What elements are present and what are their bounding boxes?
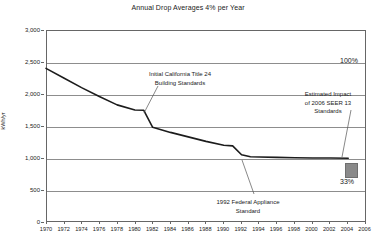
- x-tick-mark: [64, 221, 65, 224]
- x-axis-tick-labels: 1970 1972 1974 1976 1978 1980 1982 1984 …: [46, 224, 366, 242]
- x-tick-label: 1998: [288, 226, 300, 232]
- y-axis-tick-labels: 3,000 2,500 2,000 1,500 1,000 500 0: [0, 30, 44, 222]
- x-tick-mark: [312, 221, 313, 224]
- chart-title: Annual Drop Averages 4% per Year: [0, 4, 376, 11]
- x-tick-label: 1986: [181, 226, 193, 232]
- x-tick-label: 1970: [40, 226, 52, 232]
- x-tick-label: 2000: [305, 226, 317, 232]
- y-tick-label: 2,000: [25, 91, 40, 97]
- x-tick-label: 1994: [252, 226, 264, 232]
- y-tick-mark: [41, 222, 44, 223]
- x-tick-mark: [117, 221, 118, 224]
- x-tick-label: 1976: [93, 226, 105, 232]
- x-tick-mark: [188, 221, 189, 224]
- x-tick-label: 1992: [234, 226, 246, 232]
- y-tick-mark: [41, 94, 44, 95]
- x-tick-label: 1980: [128, 226, 140, 232]
- y-tick-label: 2,500: [25, 59, 40, 65]
- x-tick-mark: [99, 221, 100, 224]
- x-tick-mark: [329, 221, 330, 224]
- annotation-line: Initial California Title 24: [122, 70, 238, 79]
- annotation-title-24: Initial California Title 24 Building Sta…: [122, 70, 238, 87]
- x-tick-mark: [81, 221, 82, 224]
- x-tick-mark: [365, 221, 366, 224]
- x-tick-mark: [347, 221, 348, 224]
- annotation-line: Standards: [288, 107, 368, 116]
- x-tick-mark: [152, 221, 153, 224]
- annotation-line: Building Standards: [122, 79, 238, 88]
- annotation-federal-appliance: 1992 Federal Appliance Standard: [194, 198, 302, 215]
- y-tick-label: 500: [30, 187, 40, 193]
- x-tick-label: 1984: [164, 226, 176, 232]
- x-tick-label: 2006: [358, 226, 370, 232]
- x-tick-label: 2004: [341, 226, 353, 232]
- y-tick-mark: [41, 62, 44, 63]
- x-tick-label: 2002: [323, 226, 335, 232]
- leader-line-federal: [242, 160, 254, 194]
- y-tick-mark: [41, 190, 44, 191]
- y-tick-label: 3,000: [25, 27, 40, 33]
- x-tick-label: 1978: [111, 226, 123, 232]
- x-tick-mark: [46, 221, 47, 224]
- seer13-impact-marker: [345, 163, 358, 178]
- y-tick-mark: [41, 158, 44, 159]
- x-tick-label: 1996: [270, 226, 282, 232]
- leader-line-title24: [144, 86, 158, 113]
- y-tick-label: 0: [37, 219, 40, 225]
- x-tick-mark: [258, 221, 259, 224]
- annotation-line: Estimated Impact: [288, 90, 368, 99]
- annotation-seer-13: Estimated Impact of 2006 SEER 13 Standar…: [288, 90, 368, 116]
- y-tick-label: 1,000: [25, 155, 40, 161]
- annotation-line: of 2006 SEER 13: [288, 99, 368, 108]
- x-tick-label: 1972: [57, 226, 69, 232]
- x-tick-mark: [135, 221, 136, 224]
- x-tick-mark: [294, 221, 295, 224]
- x-tick-label: 1974: [75, 226, 87, 232]
- y-tick-label: 1,500: [25, 123, 40, 129]
- y-tick-mark: [41, 126, 44, 127]
- annotation-line: 1992 Federal Appliance: [194, 198, 302, 207]
- chart-root: Annual Drop Averages 4% per Year 3,000 2…: [0, 0, 376, 248]
- baseline-percent-label: 100%: [340, 57, 358, 64]
- x-tick-label: 1982: [146, 226, 158, 232]
- x-tick-mark: [205, 221, 206, 224]
- x-tick-mark: [170, 221, 171, 224]
- x-tick-label: 1988: [199, 226, 211, 232]
- x-tick-mark: [241, 221, 242, 224]
- leader-line-seer13: [342, 110, 351, 157]
- data-layer: [46, 30, 366, 222]
- reduced-percent-label: 33%: [340, 178, 354, 185]
- annotation-line: Standard: [194, 207, 302, 216]
- x-tick-label: 1990: [217, 226, 229, 232]
- x-tick-mark: [276, 221, 277, 224]
- x-tick-mark: [223, 221, 224, 224]
- y-tick-mark: [41, 30, 44, 31]
- y-axis-title: kWh/yr: [0, 112, 6, 129]
